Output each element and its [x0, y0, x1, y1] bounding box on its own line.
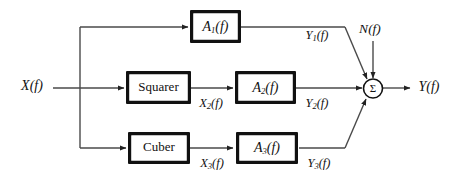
input-noise-label: N(f) — [358, 21, 381, 36]
label-y2: Y2(f) — [305, 96, 328, 111]
block-squarer-label: Squarer — [138, 79, 179, 94]
block-diagram-svg: A1(f) Squarer A2(f) Cuber A3(f) — [0, 0, 452, 182]
block-cuber[interactable]: Cuber — [128, 132, 190, 164]
label-x2: X2(f) — [198, 96, 223, 111]
block-cuber-label: Cuber — [143, 139, 175, 154]
label-x3: X3(f) — [199, 156, 224, 171]
block-a2-label: A2(f) — [251, 80, 278, 96]
block-a1[interactable]: A1(f) — [190, 10, 241, 43]
block-a2[interactable]: A2(f) — [235, 71, 296, 104]
wire-a3-to-sum — [345, 99, 366, 148]
block-squarer[interactable]: Squarer — [126, 71, 191, 104]
block-diagram-canvas: A1(f) Squarer A2(f) Cuber A3(f) — [0, 0, 452, 182]
label-y1: Y1(f) — [305, 28, 328, 43]
sigma-icon: Σ — [370, 82, 376, 94]
block-a3-label: A3(f) — [253, 140, 280, 156]
block-a3[interactable]: A3(f) — [236, 132, 298, 164]
summing-junction[interactable]: Σ — [364, 79, 383, 98]
input-x-label: X(f) — [20, 78, 43, 94]
block-a1-label: A1(f) — [201, 19, 228, 35]
output-y-label: Y(f) — [418, 79, 439, 95]
label-y3: Y3(f) — [307, 156, 330, 171]
